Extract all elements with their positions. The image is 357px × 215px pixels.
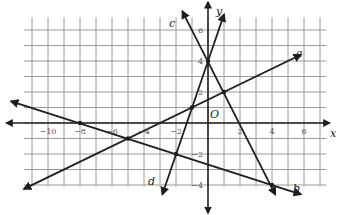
intersection-point [206, 59, 210, 63]
intersection-point [78, 121, 82, 125]
y-tick-label: −2 [191, 150, 203, 159]
line-b [11, 101, 301, 194]
intersection-point [190, 105, 194, 109]
label-c: c [169, 17, 175, 30]
lines [11, 11, 301, 194]
intersection-point [174, 152, 178, 156]
y-axis-label: y [215, 5, 223, 18]
y-tick-label: −4 [191, 181, 203, 190]
intersection-point [222, 90, 226, 94]
line-a [24, 55, 301, 189]
x-tick-label: 2 [237, 127, 242, 136]
y-tick-label: 4 [198, 57, 203, 66]
x-axis-label: x [330, 127, 337, 140]
y-tick-label: 6 [198, 26, 203, 35]
x-tick-label: −6 [106, 127, 118, 136]
x-tick-label: −8 [74, 127, 86, 136]
intersection-point [270, 183, 274, 187]
label-a: a [296, 47, 303, 60]
intersection-point [126, 136, 130, 140]
x-tick-label: 6 [301, 127, 306, 136]
grid [24, 18, 326, 187]
x-tick-label: −2 [170, 127, 182, 136]
x-tick-label: 4 [269, 127, 274, 136]
line-c [182, 11, 275, 194]
origin-label: O [210, 108, 219, 121]
coordinate-graph: −10−8−6−4−2246642−2−4 xyOabcd [0, 0, 357, 215]
x-tick-label: −4 [138, 127, 150, 136]
y-tick-label: 2 [198, 88, 203, 97]
label-b: b [293, 182, 300, 195]
label-d: d [148, 175, 155, 188]
x-tick-label: −10 [40, 127, 57, 136]
